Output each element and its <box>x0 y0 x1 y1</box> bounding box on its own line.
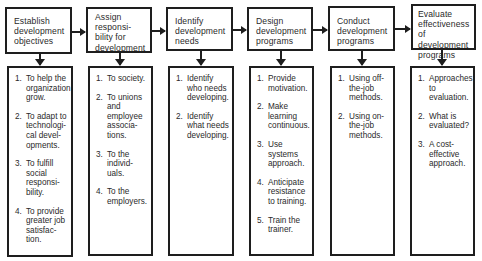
arrow-down-icon <box>441 50 443 65</box>
item-text: A cost- effective approach. <box>429 140 470 169</box>
detail-box-design: 1.Provide motivation. 2.Make learning co… <box>249 66 314 256</box>
arrow-down-icon <box>119 53 121 65</box>
list-item: 5.Train the trainer. <box>257 216 309 235</box>
item-number: 1. <box>15 74 26 103</box>
list-item: 1.Provide motivation. <box>257 74 309 93</box>
item-text: Identify who needs developing. <box>187 74 229 103</box>
list-item: 1.Approaches to evaluation. <box>418 74 470 103</box>
list-item: 2.Using on- the-job methods. <box>338 112 390 141</box>
arrow-down-icon <box>200 51 202 65</box>
item-number: 2. <box>176 112 187 141</box>
step-box-establish-objectives: Establish development objectives <box>5 7 72 54</box>
item-text: Identify what needs developing. <box>187 112 229 141</box>
list-item: 1.To help the organization grow. <box>15 74 68 103</box>
item-number: 2. <box>96 93 107 141</box>
step-title: Identify development needs <box>168 9 231 49</box>
item-text: To adapt to technologi- cal devel- opmen… <box>26 112 68 150</box>
list-item: 3.To fulfill social responsi- bility. <box>15 159 68 197</box>
item-number: 1. <box>418 74 429 103</box>
list-item: 3.A cost- effective approach. <box>418 140 470 169</box>
item-text: Provide motivation. <box>268 74 309 93</box>
arrow-down-icon <box>361 51 363 65</box>
item-text: To the individ- uals. <box>107 150 148 179</box>
list-item: 4.Anticipate resistance to training. <box>257 178 309 207</box>
arrow-right-icon <box>395 28 410 30</box>
detail-box-responsibility: 1.To society. 2.To unions and employee a… <box>88 66 153 256</box>
list-item: 4.To the employers. <box>96 187 148 206</box>
item-text: To the employers. <box>107 187 148 206</box>
item-text: Use systems approach. <box>268 140 309 169</box>
step-box-evaluate-effectiveness: Evaluate effectiveness of development pr… <box>411 4 476 50</box>
step-title: Evaluate effectiveness of development pr… <box>413 6 474 60</box>
arrow-down-icon <box>39 54 41 65</box>
item-text: To fulfill social responsi- bility. <box>26 159 68 197</box>
step-title: Assign responsi- bility for development <box>88 9 150 55</box>
item-text: To unions and employee associa- tions. <box>107 93 148 141</box>
list-item: 4.To provide greater job satisfac- tion. <box>15 207 68 245</box>
list-item: 2.What is evaluated? <box>418 112 470 131</box>
step-title: Design development programs <box>249 9 311 49</box>
item-text: What is evaluated? <box>429 112 470 131</box>
item-number: 2. <box>15 112 26 150</box>
list-item: 2.Make learning continuous. <box>257 102 309 131</box>
item-text: Using on- the-job methods. <box>349 112 390 141</box>
item-text: Train the trainer. <box>268 216 309 235</box>
item-number: 1. <box>257 74 268 93</box>
list-item: 3.Use systems approach. <box>257 140 309 169</box>
item-number: 2. <box>257 102 268 131</box>
item-number: 1. <box>96 74 107 84</box>
detail-box-needs: 1.Identify who needs developing. 2.Ident… <box>168 66 234 256</box>
item-number: 5. <box>257 216 268 235</box>
item-number: 1. <box>338 74 349 103</box>
step-box-identify-needs: Identify development needs <box>166 7 233 51</box>
item-text: To help the organization grow. <box>26 74 71 103</box>
list-item: 1.Identify who needs developing. <box>176 74 229 103</box>
arrow-down-icon <box>280 51 282 65</box>
item-text: To provide greater job satisfac- tion. <box>26 207 68 245</box>
item-number: 2. <box>418 112 429 131</box>
item-text: Approaches to evaluation. <box>429 74 473 103</box>
arrow-right-icon <box>152 30 165 32</box>
arrow-right-icon <box>313 29 327 31</box>
item-text: To society. <box>107 74 148 84</box>
item-number: 3. <box>257 140 268 169</box>
item-number: 2. <box>338 112 349 141</box>
item-text: Using off- the-job methods. <box>349 74 390 103</box>
list-item: 1.To society. <box>96 74 148 84</box>
step-box-assign-responsibility: Assign responsi- bility for development <box>86 7 152 53</box>
arrow-right-icon <box>233 29 246 31</box>
list-item: 2.Identify what needs developing. <box>176 112 229 141</box>
item-number: 4. <box>257 178 268 207</box>
list-item: 2.To unions and employee associa- tions. <box>96 93 148 141</box>
arrow-right-icon <box>72 31 85 33</box>
item-number: 3. <box>96 150 107 179</box>
item-text: Make learning continuous. <box>268 102 310 131</box>
list-item: 1.Using off- the-job methods. <box>338 74 390 103</box>
item-number: 3. <box>15 159 26 197</box>
item-number: 4. <box>96 187 107 206</box>
item-text: Anticipate resistance to training. <box>268 178 309 207</box>
item-number: 1. <box>176 74 187 103</box>
list-item: 3.To the individ- uals. <box>96 150 148 179</box>
step-title: Establish development objectives <box>7 9 70 49</box>
detail-box-objectives: 1.To help the organization grow. 2.To ad… <box>7 66 73 257</box>
item-number: 4. <box>15 207 26 245</box>
detail-box-evaluate: 1.Approaches to evaluation. 2.What is ev… <box>410 66 475 256</box>
list-item: 2.To adapt to technologi- cal devel- opm… <box>15 112 68 150</box>
detail-box-conduct: 1.Using off- the-job methods. 2.Using on… <box>330 66 395 256</box>
step-title: Conduct development programs <box>330 8 393 49</box>
item-number: 3. <box>418 140 429 169</box>
step-box-conduct-programs: Conduct development programs <box>328 6 395 51</box>
step-box-design-programs: Design development programs <box>247 7 313 51</box>
